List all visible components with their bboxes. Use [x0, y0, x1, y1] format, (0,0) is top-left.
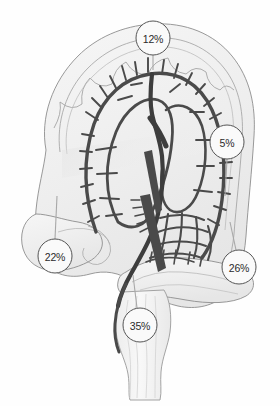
callout-ascending-colon[interactable]: 22% [38, 239, 72, 273]
callout-value-ascending-colon: 22% [45, 251, 65, 263]
callout-transverse-colon[interactable]: 12% [136, 21, 170, 55]
callout-value-transverse-colon: 12% [143, 33, 163, 45]
colon-anatomy-figure: 12%5%22%26%35% [0, 0, 280, 406]
callout-descending-colon[interactable]: 5% [210, 125, 244, 159]
callout-value-rectum: 35% [130, 320, 150, 332]
callout-sigmoid-colon[interactable]: 26% [222, 250, 256, 284]
callout-value-descending-colon: 5% [220, 137, 235, 149]
callout-rectum[interactable]: 35% [123, 308, 157, 342]
illustration-canvas: 12%5%22%26%35% [0, 0, 280, 406]
rectum-outline [116, 290, 171, 400]
callout-value-sigmoid-colon: 26% [229, 262, 249, 274]
